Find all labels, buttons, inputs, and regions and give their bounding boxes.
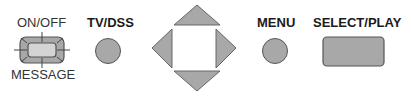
menu-label: MENU xyxy=(257,15,295,30)
left-arrow-button[interactable] xyxy=(152,29,172,68)
up-arrow-button[interactable] xyxy=(174,5,220,25)
menu-button[interactable] xyxy=(262,38,288,64)
select-play-label: SELECT/PLAY xyxy=(313,15,401,30)
right-arrow-button[interactable] xyxy=(216,29,236,68)
select-play-button[interactable] xyxy=(323,37,384,66)
tvdss-button[interactable] xyxy=(95,38,121,64)
onoff-button[interactable] xyxy=(14,32,70,68)
down-arrow-button[interactable] xyxy=(174,71,220,91)
tvdss-label: TV/DSS xyxy=(87,15,134,30)
